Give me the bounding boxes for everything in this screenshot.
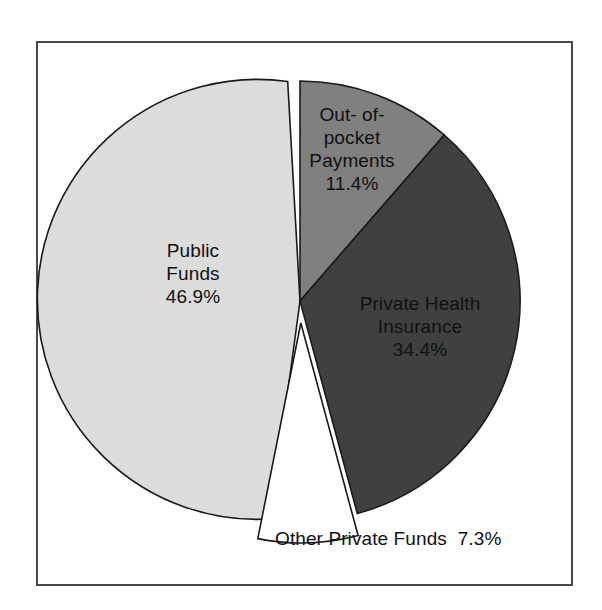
pie-slice-public-funds[interactable] xyxy=(37,79,300,519)
pie-chart-svg xyxy=(0,0,602,610)
pie-chart-area: Out- of- pocket Payments 11.4% Public Fu… xyxy=(0,0,602,610)
pie-label-other-private-funds: Other Private Funds 7.3% xyxy=(275,527,565,550)
pie-chart-figure: Out- of- pocket Payments 11.4% Public Fu… xyxy=(0,0,602,610)
